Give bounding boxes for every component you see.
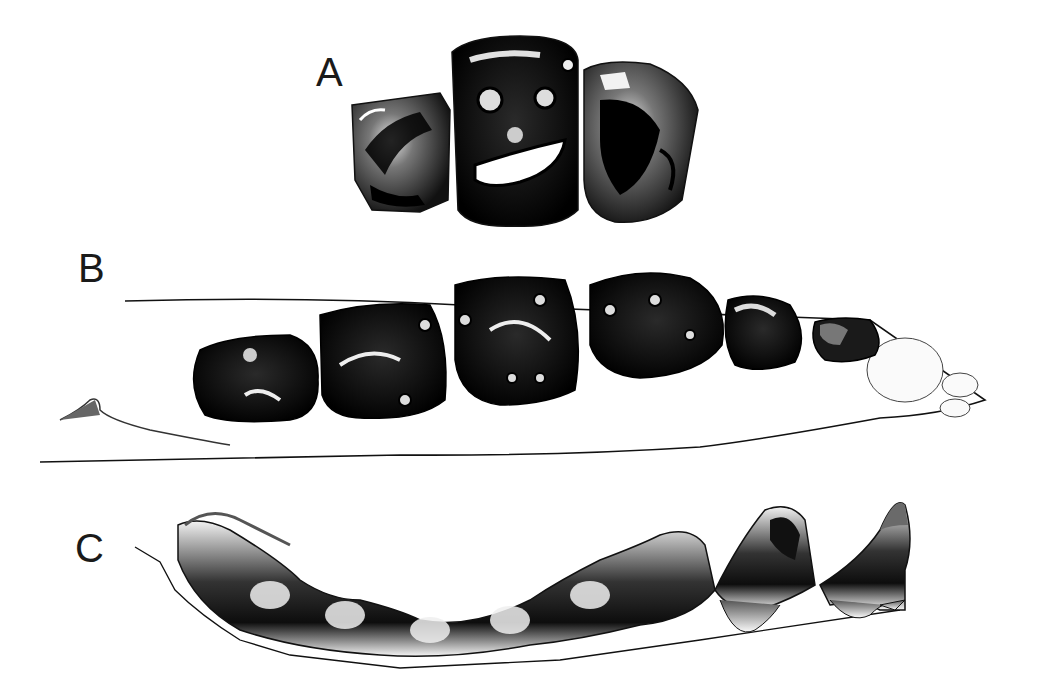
- panel-a-teeth: [352, 36, 698, 226]
- dental-illustration: [0, 0, 1043, 699]
- panel-b-jaw: [40, 273, 985, 462]
- panel-c-lateral: [135, 503, 910, 668]
